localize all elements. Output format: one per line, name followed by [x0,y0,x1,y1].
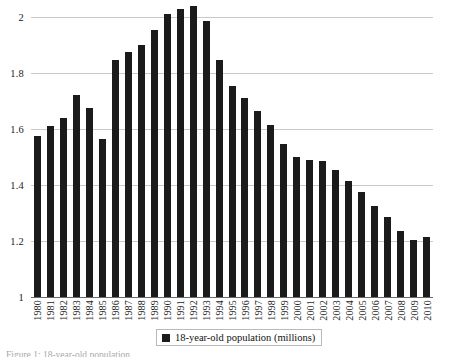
bar-1988 [138,45,145,297]
legend-label-population: 18-year-old population (millions) [175,332,315,343]
y-tick-label-1.6: 1.6 [10,124,24,135]
x-tick-label-1989: 1989 [149,300,160,321]
bar-2009 [410,240,417,297]
x-tick-label-1984: 1984 [84,300,95,321]
chart-page: 11.21.41.61.82 1980198119821983198419851… [0,0,453,357]
x-tick-label-1983: 1983 [71,300,82,321]
x-tick-label-1981: 1981 [45,300,56,321]
bar-1982 [60,118,67,297]
bar-1998 [267,125,274,297]
bar-2000 [293,157,300,297]
bar-1993 [203,21,210,297]
bar-2006 [371,206,378,297]
bar-series [31,8,433,298]
y-axis: 11.21.41.61.82 [0,8,28,298]
x-tick-label-1998: 1998 [266,300,277,321]
bar-2010 [423,237,430,297]
x-tick-label-2003: 2003 [331,300,342,321]
bar-1994 [216,60,223,297]
bar-1992 [190,6,197,297]
figure-caption: Figure 1: 18-year-old population [6,350,336,357]
bar-2005 [358,192,365,297]
bar-2008 [397,231,404,297]
bar-1987 [125,52,132,297]
bar-1999 [280,144,287,297]
x-tick-label-1982: 1982 [58,300,69,321]
bar-2004 [345,181,352,297]
bar-1986 [112,60,119,297]
bar-2007 [384,217,391,297]
x-tick-label-2010: 2010 [422,300,433,321]
x-tick-label-2004: 2004 [344,300,355,321]
x-tick-label-2009: 2009 [409,300,420,321]
x-tick-label-2008: 2008 [396,300,407,321]
bar-1984 [86,108,93,297]
bar-2003 [332,170,339,297]
y-tick-label-2: 2 [19,12,24,23]
x-tick-label-1997: 1997 [253,300,264,321]
bar-1990 [164,14,171,297]
chart-legend: 18-year-old population (millions) [156,329,322,346]
x-tick-label-1996: 1996 [240,300,251,321]
x-tick-label-1993: 1993 [201,300,212,321]
x-tick-label-1980: 1980 [32,300,43,321]
bar-1995 [229,86,236,297]
bar-1981 [47,126,54,297]
bar-1997 [254,111,261,297]
plot-area [31,8,433,298]
legend-swatch-population [162,334,170,342]
y-tick-label-1.2: 1.2 [10,236,24,247]
x-tick-label-1988: 1988 [136,300,147,321]
bar-2002 [319,161,326,297]
bar-1996 [241,98,248,297]
x-tick-label-1990: 1990 [162,300,173,321]
x-tick-label-2001: 2001 [305,300,316,321]
x-tick-label-1992: 1992 [188,300,199,321]
x-tick-label-2006: 2006 [370,300,381,321]
bar-1980 [34,136,41,297]
bar-1991 [177,9,184,297]
bar-1989 [151,30,158,297]
x-tick-label-1994: 1994 [214,300,225,321]
x-tick-label-2005: 2005 [357,300,368,321]
bar-1983 [73,95,80,297]
bar-1985 [99,139,106,297]
x-tick-label-2002: 2002 [318,300,329,321]
x-tick-label-2007: 2007 [383,300,394,321]
x-tick-label-1986: 1986 [110,300,121,321]
x-tick-label-2000: 2000 [292,300,303,321]
y-tick-label-1: 1 [19,292,24,303]
x-tick-label-1985: 1985 [97,300,108,321]
x-tick-label-1991: 1991 [175,300,186,321]
y-tick-label-1.4: 1.4 [10,180,24,191]
x-tick-label-1987: 1987 [123,300,134,321]
bar-2001 [306,160,313,297]
x-tick-label-1999: 1999 [279,300,290,321]
y-tick-label-1.8: 1.8 [10,68,24,79]
x-tick-label-1995: 1995 [227,300,238,321]
